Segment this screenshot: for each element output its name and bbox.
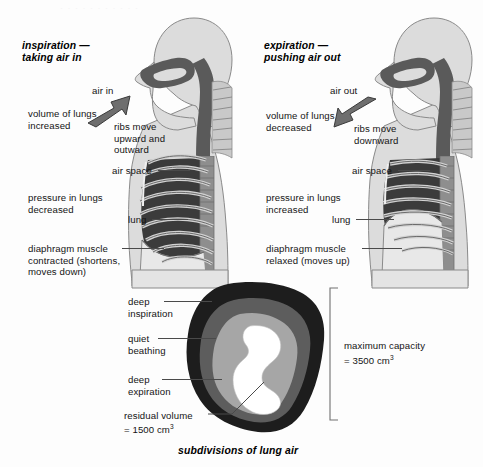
deep-inspiration-leader <box>164 301 212 302</box>
diagram-canvas: · · · · · · · · · · · <box>0 0 483 467</box>
expiration-air-space-label: air space <box>352 165 392 177</box>
maximum-capacity-exponent: 3 <box>390 354 394 361</box>
maximum-capacity-number: = 3500 cm <box>344 355 390 366</box>
expiration-ribs-move-label: ribs move downward <box>354 123 424 146</box>
lung-leader-left <box>152 219 188 220</box>
inspiration-heading: inspiration — taking air in <box>22 40 90 65</box>
residual-volume-value: = 1500 cm3 <box>124 421 174 436</box>
expiration-lung-label: lung <box>332 214 351 226</box>
residual-volume-number: = 1500 cm <box>124 424 170 435</box>
inspiration-pressure-label: pressure in lungs decreased <box>28 192 128 215</box>
maximum-capacity-bracket <box>326 286 342 422</box>
inspiration-volume-of-lungs-label: volume of lungs increased <box>28 108 123 131</box>
quiet-breathing-leader <box>158 338 216 339</box>
quiet-breathing-label: quiet beathing <box>128 333 192 356</box>
expiration-volume-of-lungs-label: volume of lungs decreased <box>266 110 361 133</box>
cervical-spine <box>212 81 232 158</box>
expiration-diaphragm-label: diaphragm muscle relaxed (moves up) <box>266 243 378 266</box>
air-in-label: air in <box>92 85 113 97</box>
expiration-pressure-label: pressure in lungs increased <box>266 192 366 215</box>
maximum-capacity-value: = 3500 cm3 <box>344 352 394 367</box>
inspiration-lung-label: lung <box>128 214 147 226</box>
inspiration-ribs-move-label: ribs move upward and outward <box>114 121 184 156</box>
inspiration-air-space-label: air space <box>112 165 152 177</box>
lower-torso <box>372 270 468 288</box>
maximum-capacity-label: maximum capacity <box>344 340 454 352</box>
cervical-spine <box>452 81 472 158</box>
air-space-leader-right <box>398 170 430 171</box>
deep-expiration-label: deep expiration <box>128 374 192 397</box>
air-out-label: air out <box>330 85 357 97</box>
diaphragm-leader-right <box>362 248 402 249</box>
residual-volume-leader <box>206 380 276 416</box>
residual-volume-label: residual volume <box>124 410 214 422</box>
diaphragm-leader-left <box>122 248 164 249</box>
lung-leader-right <box>356 219 394 220</box>
deep-inspiration-label: deep inspiration <box>128 296 192 319</box>
expiration-heading: expiration — pushing air out <box>264 40 341 65</box>
air-space-leader-left <box>158 170 190 171</box>
figure-caption: subdivisions of lung air <box>178 445 298 456</box>
residual-volume-exponent: 3 <box>170 423 174 430</box>
